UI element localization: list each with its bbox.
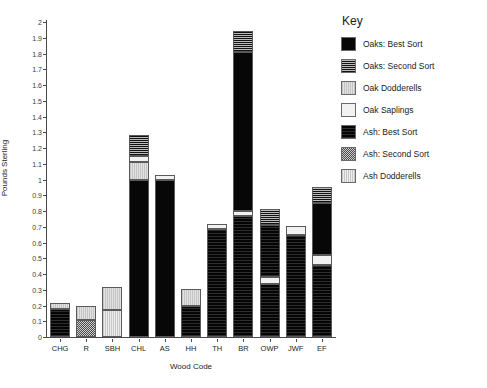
y-tick-label: 0.6 bbox=[0, 239, 42, 246]
x-tick-mark bbox=[191, 339, 192, 342]
bar-segment bbox=[260, 225, 280, 277]
x-tick-label: HH bbox=[186, 344, 197, 353]
legend-label: Oak Dodderells bbox=[363, 83, 422, 93]
y-tick-label: 0.9 bbox=[0, 192, 42, 199]
legend-item-6[interactable]: Ash Dodderells bbox=[341, 169, 487, 183]
legend-label: Oaks: Best Sort bbox=[363, 39, 423, 49]
bar-segment bbox=[260, 277, 280, 284]
y-tick-mark bbox=[43, 195, 46, 196]
bar-segment bbox=[312, 203, 332, 255]
y-tick-mark bbox=[43, 54, 46, 55]
legend-item-4[interactable]: Ash: Best Sort bbox=[341, 125, 487, 139]
bar-segment bbox=[129, 162, 149, 179]
bar-segment bbox=[76, 320, 96, 337]
legend-swatch-icon bbox=[341, 169, 356, 183]
bar-sbh[interactable] bbox=[102, 287, 122, 337]
legend-label: Oak Saplings bbox=[363, 105, 414, 115]
bar-segment bbox=[129, 180, 149, 338]
y-tick-mark bbox=[43, 117, 46, 118]
bar-as[interactable] bbox=[155, 175, 175, 337]
legend-swatch-icon bbox=[341, 81, 356, 95]
bar-segment bbox=[76, 306, 96, 321]
y-tick-label: 1 bbox=[0, 176, 42, 183]
bar-segment bbox=[286, 235, 306, 337]
legend-label: Ash Dodderells bbox=[363, 171, 421, 181]
bar-segment bbox=[155, 180, 175, 338]
bar-segment bbox=[207, 224, 227, 229]
x-axis-title: Wood Code bbox=[47, 362, 335, 371]
y-tick-mark bbox=[43, 180, 46, 181]
bar-owp[interactable] bbox=[260, 209, 280, 337]
x-tick-mark bbox=[322, 339, 323, 342]
bar-hh[interactable] bbox=[181, 289, 201, 337]
bar-br[interactable] bbox=[233, 31, 253, 337]
x-tick-label: TH bbox=[212, 344, 222, 353]
y-tick-label: 0.7 bbox=[0, 223, 42, 230]
bar-ef[interactable] bbox=[312, 187, 332, 337]
bar-segment bbox=[181, 289, 201, 306]
bar-segment bbox=[312, 265, 332, 337]
bar-segment bbox=[312, 187, 332, 204]
bar-chg[interactable] bbox=[50, 303, 70, 337]
y-tick-mark bbox=[43, 337, 46, 338]
bar-segment bbox=[102, 310, 122, 337]
legend-title: Key bbox=[342, 14, 487, 28]
x-tick-label: EF bbox=[317, 344, 327, 353]
legend-label: Oaks: Second Sort bbox=[363, 61, 434, 71]
x-tick-label: BR bbox=[238, 344, 248, 353]
y-tick-label: 1.3 bbox=[0, 129, 42, 136]
legend-item-0[interactable]: Oaks: Best Sort bbox=[341, 37, 487, 51]
legend: Key Oaks: Best SortOaks: Second SortOak … bbox=[341, 14, 487, 191]
bar-segment bbox=[102, 287, 122, 311]
legend-item-5[interactable]: Ash: Second Sort bbox=[341, 147, 487, 161]
x-tick-mark bbox=[217, 339, 218, 342]
y-tick-label: 0 bbox=[0, 334, 42, 341]
bar-chl[interactable] bbox=[129, 135, 149, 337]
x-tick-mark bbox=[86, 339, 87, 342]
x-tick-label: AS bbox=[160, 344, 170, 353]
legend-swatch-icon bbox=[341, 125, 356, 139]
bar-r[interactable] bbox=[76, 306, 96, 338]
x-tick-mark bbox=[243, 339, 244, 342]
bar-segment bbox=[233, 31, 253, 51]
y-tick-mark bbox=[43, 101, 46, 102]
bar-segment bbox=[233, 211, 253, 216]
x-tick-mark bbox=[112, 339, 113, 342]
y-tick-label: 1.8 bbox=[0, 50, 42, 57]
x-tick-mark bbox=[165, 339, 166, 342]
y-tick-label: 1.7 bbox=[0, 66, 42, 73]
y-tick-label: 1.1 bbox=[0, 160, 42, 167]
legend-label: Ash: Best Sort bbox=[363, 127, 417, 137]
chart-page: Pounds Sterling 21.91.81.71.61.51.41.31.… bbox=[0, 0, 487, 388]
bar-segment bbox=[233, 216, 253, 337]
y-tick-label: 1.9 bbox=[0, 34, 42, 41]
y-tick-mark bbox=[43, 290, 46, 291]
bar-segment bbox=[286, 226, 306, 235]
bar-segment bbox=[260, 209, 280, 226]
y-tick-label: 1.6 bbox=[0, 82, 42, 89]
legend-item-3[interactable]: Oak Saplings bbox=[341, 103, 487, 117]
y-tick-label: 0.1 bbox=[0, 318, 42, 325]
bar-segment bbox=[181, 306, 201, 338]
y-tick-mark bbox=[43, 321, 46, 322]
legend-label: Ash: Second Sort bbox=[363, 149, 429, 159]
y-tick-mark bbox=[43, 164, 46, 165]
bar-segment bbox=[233, 52, 253, 211]
legend-item-2[interactable]: Oak Dodderells bbox=[341, 81, 487, 95]
y-tick-mark bbox=[43, 306, 46, 307]
bar-segment bbox=[129, 156, 149, 162]
bar-th[interactable] bbox=[207, 224, 227, 337]
x-tick-label: R bbox=[84, 344, 89, 353]
y-tick-label: 1.4 bbox=[0, 113, 42, 120]
x-tick-mark bbox=[60, 339, 61, 342]
y-tick-label: 2 bbox=[0, 19, 42, 26]
x-axis-line bbox=[46, 337, 336, 338]
y-tick-mark bbox=[43, 243, 46, 244]
legend-item-1[interactable]: Oaks: Second Sort bbox=[341, 59, 487, 73]
y-tick-label: 1.5 bbox=[0, 97, 42, 104]
y-tick-mark bbox=[43, 211, 46, 212]
bar-jwf[interactable] bbox=[286, 226, 306, 337]
legend-swatch-icon bbox=[341, 59, 356, 73]
bar-segment bbox=[50, 303, 70, 309]
x-tick-mark bbox=[270, 339, 271, 342]
